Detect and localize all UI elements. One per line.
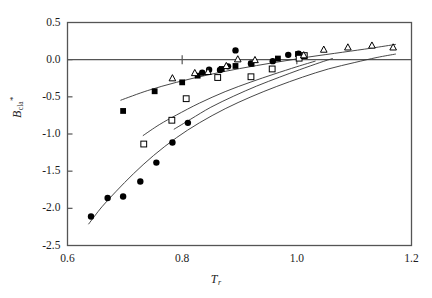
data-point-filled-circle (169, 139, 175, 145)
x-tick-label: 1.0 (277, 253, 317, 265)
data-point-filled-circle (285, 52, 291, 58)
data-point-filled-circle (137, 178, 143, 184)
data-point-filled-square (233, 63, 239, 69)
circle-fit-curve (89, 54, 396, 224)
data-point-filled-square (120, 108, 126, 114)
y-axis-title-subscript: cla (16, 101, 25, 110)
y-tick-label: -2.0 (42, 202, 60, 214)
x-tick-label: 0.8 (162, 253, 202, 265)
data-point-open-triangle (191, 69, 198, 75)
x-tick-label: 1.2 (392, 253, 432, 265)
data-point-open-square (141, 141, 147, 147)
data-point-open-triangle (369, 42, 376, 48)
data-point-filled-circle (120, 193, 126, 199)
y-tick-label: 0.5 (46, 17, 60, 29)
data-point-open-square (269, 66, 275, 72)
data-point-open-square (169, 117, 175, 123)
y-axis-title-main: B (10, 111, 24, 118)
data-point-open-square (248, 74, 254, 80)
data-point-filled-circle (153, 159, 159, 165)
x-tick-label: 0.6 (48, 253, 88, 265)
upper-fit-curve (121, 44, 396, 100)
data-point-open-triangle (320, 46, 327, 52)
data-point-filled-square (179, 79, 185, 85)
data-point-filled-circle (88, 213, 94, 219)
data-point-filled-circle (104, 195, 110, 201)
data-point-filled-circle (232, 47, 238, 53)
data-point-open-square (183, 96, 189, 102)
figure-container: 0.50.0-0.5-1.0-1.5-2.0-2.5 0.60.81.01.2 … (0, 0, 432, 298)
data-point-open-triangle (169, 75, 176, 81)
data-markers (88, 42, 397, 220)
fit-curves (89, 44, 396, 224)
lower-fit-curve (174, 59, 332, 130)
y-tick-label: -1.5 (42, 165, 60, 177)
data-point-open-triangle (345, 44, 352, 50)
x-axis-title-subscript: r (218, 278, 221, 287)
data-point-filled-circle (270, 58, 276, 64)
y-tick-label: -1.0 (42, 128, 60, 140)
data-point-filled-square (275, 56, 281, 62)
y-tick-label: 0.0 (46, 54, 60, 66)
y-axis-title-superscript: * (8, 96, 18, 101)
data-point-filled-circle (185, 120, 191, 126)
plot-frame (68, 23, 412, 246)
y-axis-title: Bcla* (8, 96, 25, 118)
y-tick-label: -2.5 (42, 240, 60, 252)
data-point-filled-square (152, 88, 158, 94)
x-axis-title-main: T (211, 272, 218, 286)
data-point-open-triangle (234, 56, 241, 62)
data-point-open-square (215, 75, 221, 81)
y-tick-label: -0.5 (42, 91, 60, 103)
x-axis-title: Tr (0, 272, 432, 287)
